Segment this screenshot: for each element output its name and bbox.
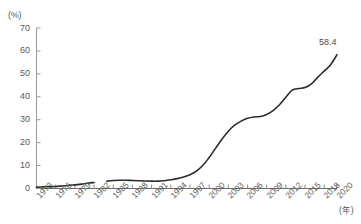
y-tick-label: 40 bbox=[8, 92, 30, 101]
y-tick-label: 10 bbox=[8, 161, 30, 170]
y-tick-label: 60 bbox=[8, 46, 30, 55]
y-tick-label: 70 bbox=[8, 24, 30, 33]
data-series-line bbox=[37, 55, 338, 188]
final-value-annotation: 58.4 bbox=[319, 37, 337, 47]
y-tick-label: 30 bbox=[8, 115, 30, 124]
y-tick-label: 20 bbox=[8, 138, 30, 147]
data-line-segment-main bbox=[107, 55, 337, 182]
y-tick-label: 0 bbox=[8, 184, 30, 193]
axis-lines bbox=[36, 28, 337, 189]
line-chart: (%) (年) 010203040506070 1973197619791982… bbox=[0, 0, 361, 224]
x-axis-unit-label: (年) bbox=[339, 203, 354, 215]
y-axis-tick-marks bbox=[37, 28, 41, 189]
y-axis-unit-label: (%) bbox=[8, 10, 21, 20]
cut-off-header-text bbox=[6, 0, 306, 5]
y-tick-label: 50 bbox=[8, 69, 30, 78]
